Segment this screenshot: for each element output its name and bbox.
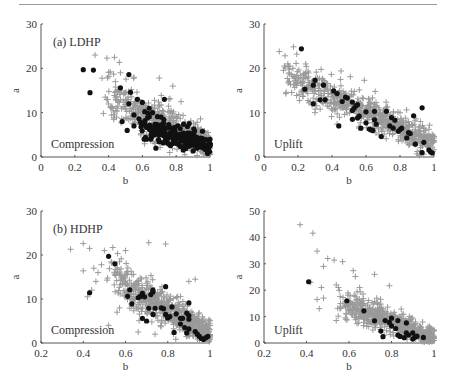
data-point-plus <box>337 294 343 300</box>
data-point-dot <box>318 97 323 102</box>
data-point-plus <box>149 319 155 325</box>
data-point-dot <box>312 78 317 83</box>
data-point-plus <box>163 241 169 247</box>
data-point-dot <box>420 150 425 155</box>
data-point-dot <box>186 300 191 305</box>
data-point-plus <box>131 74 137 80</box>
data-point-dot <box>203 147 208 152</box>
data-point-plus <box>167 96 173 102</box>
x-tick-label: 0.6 <box>136 161 150 173</box>
data-point-plus <box>104 55 110 61</box>
data-point-dot <box>131 123 136 128</box>
data-point-dot <box>299 46 304 51</box>
data-point-plus <box>340 259 346 265</box>
data-point-dot <box>200 129 205 134</box>
data-point-dot <box>129 301 134 306</box>
data-point-dot <box>372 117 377 122</box>
data-point-dot <box>126 101 131 106</box>
data-point-dot <box>205 334 210 339</box>
data-point-plus <box>289 90 295 96</box>
y-tick-label: 20 <box>249 284 261 296</box>
x-tick-label: 0.8 <box>161 347 175 359</box>
data-point-dot <box>404 135 409 140</box>
data-point-dot <box>380 334 385 339</box>
data-point-plus <box>331 257 337 263</box>
data-point-dot <box>372 109 377 114</box>
panel-title: (a) LDHP <box>53 35 101 49</box>
data-point-plus <box>80 241 86 247</box>
data-point-dot <box>81 67 86 72</box>
markers <box>297 222 437 345</box>
data-point-plus <box>347 74 353 80</box>
data-point-plus <box>106 88 112 94</box>
data-point-dot <box>112 261 117 266</box>
data-point-plus <box>178 99 184 105</box>
data-point-plus <box>314 248 320 254</box>
data-point-plus <box>294 51 300 57</box>
data-point-dot <box>147 106 152 111</box>
x-tick-label: 0.4 <box>76 347 90 359</box>
data-point-dot <box>404 320 409 325</box>
data-point-plus <box>328 71 334 77</box>
data-point-plus <box>303 61 309 67</box>
y-axis-label: a <box>9 88 21 93</box>
data-point-dot <box>361 308 366 313</box>
data-point-plus <box>354 321 360 327</box>
data-point-dot <box>191 126 196 131</box>
data-point-plus <box>404 107 410 113</box>
data-point-dot <box>374 122 379 127</box>
data-point-dot <box>370 128 375 133</box>
data-point-dot <box>378 329 383 334</box>
data-point-plus <box>123 248 129 254</box>
data-point-dot <box>355 102 360 107</box>
x-tick-label: 0.8 <box>169 161 183 173</box>
data-point-plus <box>361 77 367 83</box>
data-point-dot <box>166 126 171 131</box>
x-tick-label: 0.4 <box>102 161 116 173</box>
data-point-dot <box>161 306 166 311</box>
data-point-dot <box>421 335 426 340</box>
data-point-dot <box>174 141 179 146</box>
data-point-plus <box>135 329 141 335</box>
data-point-plus <box>170 83 176 89</box>
panel-annotation: Compression <box>51 323 114 337</box>
y-tick-label: 20 <box>26 249 38 261</box>
data-point-plus <box>116 59 122 65</box>
data-point-plus <box>426 126 432 132</box>
data-point-plus <box>117 70 123 76</box>
data-point-plus <box>180 112 186 118</box>
data-point-dot <box>167 314 172 319</box>
y-tick-label: 10 <box>249 311 261 323</box>
data-point-dot <box>192 133 197 138</box>
panel-top-right: 010203000.20.40.60.81baUplift <box>232 18 437 186</box>
data-point-dot <box>91 68 96 73</box>
data-point-plus <box>158 324 164 330</box>
data-point-dot <box>120 119 125 124</box>
x-axis-label: b <box>346 174 352 186</box>
data-point-dot <box>169 304 174 309</box>
x-tick-label: 0.2 <box>291 161 305 173</box>
data-point-plus <box>110 245 116 251</box>
y-tick-label: 50 <box>249 205 261 217</box>
data-point-plus <box>366 99 372 105</box>
data-point-plus <box>167 150 173 156</box>
data-point-plus <box>91 265 97 271</box>
data-point-plus <box>87 245 93 251</box>
data-point-plus <box>282 53 288 59</box>
data-point-plus <box>80 268 86 274</box>
data-point-plus <box>106 266 112 272</box>
x-tick-label: 0.2 <box>257 347 271 359</box>
data-point-dot <box>87 90 92 95</box>
data-point-dot <box>146 306 151 311</box>
data-point-plus <box>68 246 74 252</box>
data-point-dot <box>207 139 212 144</box>
x-tick-label: 1 <box>207 161 213 173</box>
y-tick-label: 10 <box>249 107 261 119</box>
data-point-dot <box>142 294 147 299</box>
data-point-plus <box>100 110 106 116</box>
data-point-plus <box>293 60 299 66</box>
data-point-plus <box>186 278 192 284</box>
y-axis-label: a <box>232 274 244 279</box>
data-point-dot <box>306 279 311 284</box>
data-point-dot <box>411 113 416 118</box>
